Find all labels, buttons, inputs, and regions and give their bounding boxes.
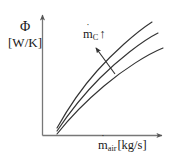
annotation-dot-accent: ˙ [86,23,89,33]
y-axis-units: [W/K] [8,36,42,50]
coolant-flow-annotation: ˙mC↑ [83,28,106,43]
trend-arrow [96,48,115,74]
x-axis-units: [kg/s] [117,138,146,152]
x-axis-dot-accent: ˙ [101,134,104,144]
y-axis-symbol: Φ [8,20,42,35]
x-axis-subscript: air [108,144,117,153]
chart-figure: Φ [W/K] ˙mair[kg/s] ˙mC↑ [0,0,175,159]
curve-lower [57,48,163,134]
x-axis-symbol: ˙m [98,139,108,152]
annotation-up-arrow-icon: ↑ [99,27,105,41]
x-axis-label: ˙mair[kg/s] [98,139,147,154]
annotation-subscript: C [93,33,99,42]
y-axis-label: Φ [W/K] [8,20,42,49]
annotation-symbol: ˙m [83,28,93,41]
